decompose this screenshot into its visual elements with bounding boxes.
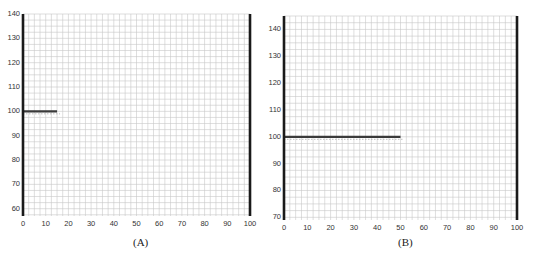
y-tick-label: 120 xyxy=(2,58,20,67)
x-tick-label: 90 xyxy=(484,223,504,232)
panel-caption: (B) xyxy=(398,236,413,248)
x-tick-label: 10 xyxy=(36,219,56,228)
y-tick-label: 60 xyxy=(2,204,20,213)
x-tick-label: 90 xyxy=(217,219,237,228)
x-tick-label: 10 xyxy=(297,223,317,232)
x-tick-label: 30 xyxy=(344,223,364,232)
plot-area xyxy=(23,14,250,216)
x-tick-label: 40 xyxy=(104,219,124,228)
y-tick-label: 80 xyxy=(2,155,20,164)
x-tick-label: 60 xyxy=(149,219,169,228)
y-tick-label: 90 xyxy=(263,159,281,168)
x-tick-label: 50 xyxy=(391,223,411,232)
y-tick-label: 80 xyxy=(263,185,281,194)
x-tick-label: 50 xyxy=(127,219,147,228)
x-tick-label: 80 xyxy=(460,223,480,232)
x-tick-label: 70 xyxy=(172,219,192,228)
x-tick-label: 80 xyxy=(195,219,215,228)
y-tick-label: 110 xyxy=(2,82,20,91)
x-tick-label: 100 xyxy=(240,219,260,228)
y-tick-label: 110 xyxy=(263,105,281,114)
panel-caption: (A) xyxy=(133,236,148,248)
y-tick-label: 130 xyxy=(263,51,281,60)
y-tick-label: 140 xyxy=(263,24,281,33)
x-tick-label: 30 xyxy=(81,219,101,228)
x-tick-label: 20 xyxy=(58,219,78,228)
x-tick-label: 0 xyxy=(274,223,294,232)
x-tick-label: 70 xyxy=(437,223,457,232)
x-tick-label: 20 xyxy=(321,223,341,232)
y-tick-label: 130 xyxy=(2,33,20,42)
y-tick-label: 120 xyxy=(263,78,281,87)
x-tick-label: 40 xyxy=(367,223,387,232)
y-tick-label: 140 xyxy=(2,9,20,18)
x-tick-label: 60 xyxy=(414,223,434,232)
y-tick-label: 70 xyxy=(2,179,20,188)
y-tick-label: 70 xyxy=(263,212,281,221)
plot-area xyxy=(284,16,517,220)
x-tick-label: 0 xyxy=(13,219,33,228)
y-tick-label: 100 xyxy=(263,132,281,141)
x-tick-label: 100 xyxy=(507,223,527,232)
y-tick-label: 100 xyxy=(2,106,20,115)
y-tick-label: 90 xyxy=(2,131,20,140)
